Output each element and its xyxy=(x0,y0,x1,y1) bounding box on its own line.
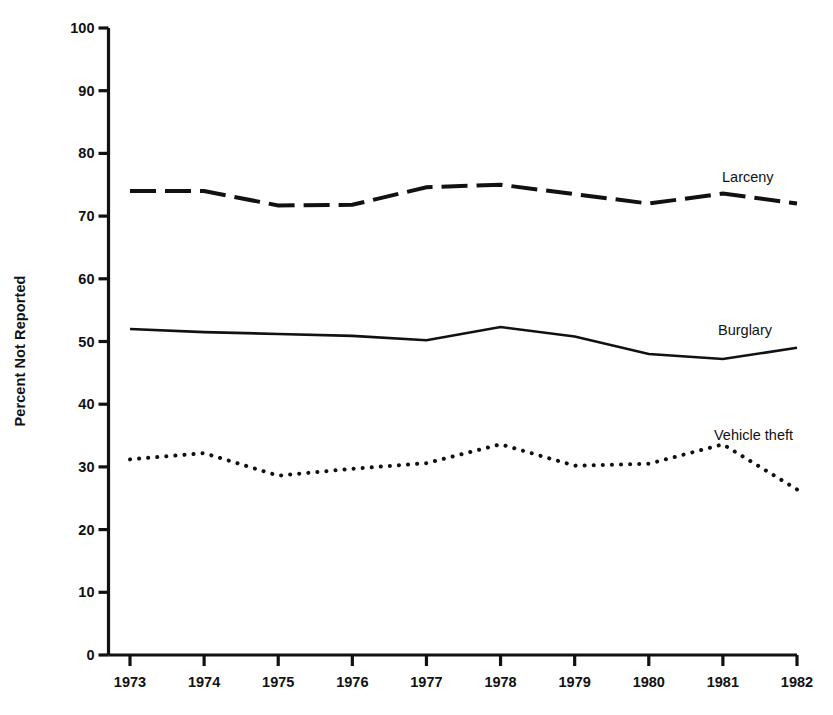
series-line-larceny xyxy=(130,185,797,206)
line-chart: Percent Not Reported 0102030405060708090… xyxy=(0,0,833,715)
data-series xyxy=(130,185,797,490)
axes xyxy=(99,28,798,666)
series-line-burglary xyxy=(130,327,797,359)
series-line-vehicle-theft xyxy=(130,444,797,489)
plot-area xyxy=(0,0,833,715)
